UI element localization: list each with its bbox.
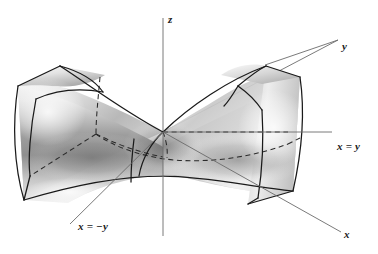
- y-axis-label: y: [342, 41, 347, 52]
- highlight-left: [10, 78, 86, 146]
- line-x-equals-y-label: x = y: [337, 141, 360, 152]
- line-x-equals-minus-y-label: x = −y: [78, 221, 108, 232]
- saddle-diagram-svg: [0, 0, 378, 254]
- saddle-figure: z y x x = y x = −y: [0, 0, 378, 254]
- y-axis-line-front: [265, 40, 338, 65]
- z-axis-label: z: [168, 14, 172, 25]
- x-axis-label: x: [344, 229, 350, 240]
